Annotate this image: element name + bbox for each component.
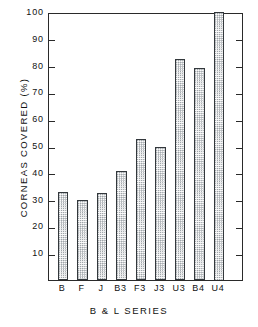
y-axis-tick-mark-right — [236, 228, 242, 229]
y-axis-tick-label: 20 — [32, 222, 44, 231]
y-axis-tick-mark-right — [236, 40, 242, 41]
bar — [77, 200, 88, 280]
y-axis-tick-mark — [49, 201, 55, 202]
y-axis-tick-mark — [49, 255, 55, 256]
y-axis-tick-mark-right — [236, 94, 242, 95]
bar-group — [49, 14, 242, 280]
y-axis-tick-mark-right — [236, 201, 242, 202]
y-axis-tick-mark-right — [236, 255, 242, 256]
plot-area — [48, 13, 243, 281]
bar — [58, 192, 69, 280]
y-axis-tick-mark — [49, 174, 55, 175]
bar — [136, 139, 147, 280]
x-axis-tick-label: U4 — [211, 283, 224, 294]
y-axis-tick-mark — [49, 40, 55, 41]
bar-chart-figure: CORNEAS COVERED (%) 10203040506070809010… — [0, 0, 258, 327]
y-axis-tick-mark-right — [236, 67, 242, 68]
y-axis-tick-label: 80 — [32, 62, 44, 71]
y-axis-tick-label: 30 — [32, 196, 44, 205]
x-axis-tick-label: B4 — [192, 283, 205, 294]
y-axis-tick-label: 10 — [32, 249, 44, 258]
x-axis-tick-label: F — [78, 283, 84, 294]
y-axis-tick-label: 60 — [32, 115, 44, 124]
bar — [175, 59, 186, 280]
x-axis-tick-label: J3 — [154, 283, 165, 294]
bar — [155, 147, 166, 280]
y-axis-tick-label: 70 — [32, 88, 44, 97]
y-axis-tick-mark-right — [236, 121, 242, 122]
bar — [97, 193, 108, 280]
bar — [214, 12, 225, 280]
y-axis-tick-mark-right — [236, 174, 242, 175]
x-axis-tick-label: J — [98, 283, 103, 294]
y-axis-tick-label: 50 — [32, 142, 44, 151]
y-axis-tick-mark-right — [236, 148, 242, 149]
y-axis-tick-label: 100 — [26, 8, 44, 17]
x-axis-tick-label: F3 — [134, 283, 146, 294]
x-axis-tick-label: B3 — [114, 283, 127, 294]
y-axis-tick-mark — [49, 228, 55, 229]
y-axis-tick-mark — [49, 67, 55, 68]
x-axis-tick-labels: BFJB3F3J3U3B4U4 — [48, 283, 243, 297]
y-axis-tick-label: 40 — [32, 169, 44, 178]
x-axis-tick-label: B — [59, 283, 66, 294]
y-axis-tick-label: 90 — [32, 35, 44, 44]
x-axis-tick-label: U3 — [172, 283, 185, 294]
bar — [116, 171, 127, 280]
bar — [194, 68, 205, 280]
x-axis-title: B & L SERIES — [0, 305, 258, 316]
y-axis-tick-mark — [49, 121, 55, 122]
y-axis-tick-mark — [49, 148, 55, 149]
y-axis-tick-mark — [49, 94, 55, 95]
